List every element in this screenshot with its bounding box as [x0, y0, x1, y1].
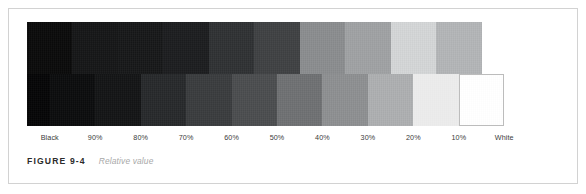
value-scale-row-lower: [27, 74, 527, 126]
value-swatch-lower-20: [368, 74, 413, 126]
value-scale-label-70pct: 70%: [163, 131, 208, 145]
value-scale-label-white: White: [482, 131, 527, 145]
figure-caption-title: Relative value: [99, 156, 154, 166]
value-swatch-upper-10: [436, 22, 481, 74]
value-scale-label-80pct: 80%: [118, 131, 163, 145]
value-swatch-upper-100: [27, 22, 72, 74]
figure-caption: FIGURE 9-4 Relative value: [27, 156, 154, 170]
value-swatch-lower-70: [141, 74, 186, 126]
figure-page: Black90%80%70%60%50%40%30%20%10%White FI…: [0, 0, 586, 194]
value-swatch-lower-90: [50, 74, 95, 126]
value-scale-plate: [27, 22, 527, 127]
value-scale-row-upper: [27, 22, 527, 74]
value-swatch-lower-0: [459, 74, 504, 126]
value-swatch-lower-100: [27, 74, 50, 126]
value-swatch-upper-90: [72, 22, 117, 74]
value-swatch-upper-40: [300, 22, 345, 74]
value-swatch-upper-50: [254, 22, 299, 74]
value-swatch-upper-80: [118, 22, 163, 74]
value-swatch-lower-60: [186, 74, 231, 126]
figure-frame: Black90%80%70%60%50%40%30%20%10%White FI…: [8, 8, 578, 184]
value-swatch-lower-10: [413, 74, 458, 126]
value-swatch-upper-70: [163, 22, 208, 74]
value-swatch-lower-30: [322, 74, 367, 126]
value-swatch-upper-20: [391, 22, 436, 74]
value-swatch-lower-40: [277, 74, 322, 126]
value-scale-label-black: Black: [27, 131, 72, 145]
value-scale-label-20pct: 20%: [391, 131, 436, 145]
value-scale-label-10pct: 10%: [436, 131, 481, 145]
value-scale-label-90pct: 90%: [72, 131, 117, 145]
value-swatch-lower-50: [232, 74, 277, 126]
value-scale-label-50pct: 50%: [254, 131, 299, 145]
figure-caption-label: FIGURE 9-4: [27, 156, 86, 166]
value-swatch-upper-30: [345, 22, 390, 74]
value-scale-label-60pct: 60%: [209, 131, 254, 145]
value-scale-label-40pct: 40%: [300, 131, 345, 145]
value-swatch-lower-80: [95, 74, 140, 126]
value-swatch-upper-60: [209, 22, 254, 74]
value-scale-tick-labels: Black90%80%70%60%50%40%30%20%10%White: [27, 131, 527, 145]
value-scale-label-30pct: 30%: [345, 131, 390, 145]
